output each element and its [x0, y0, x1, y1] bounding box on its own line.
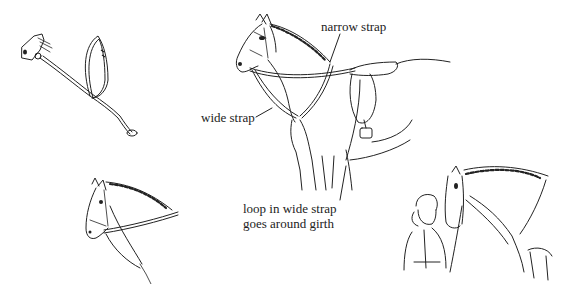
wide-strap-leader	[256, 108, 272, 117]
loop-leader	[340, 166, 346, 200]
narrow-strap-leader	[330, 34, 340, 62]
label-loop-line1: loop in wide strap	[243, 203, 337, 215]
martingale-diagram: narrow strap wide strap loop in wide str…	[0, 0, 567, 284]
label-narrow-strap: narrow strap	[321, 21, 386, 33]
label-wide-strap: wide strap	[201, 112, 255, 124]
label-loop-line2: goes around girth	[243, 218, 334, 230]
leader-lines	[0, 0, 567, 284]
